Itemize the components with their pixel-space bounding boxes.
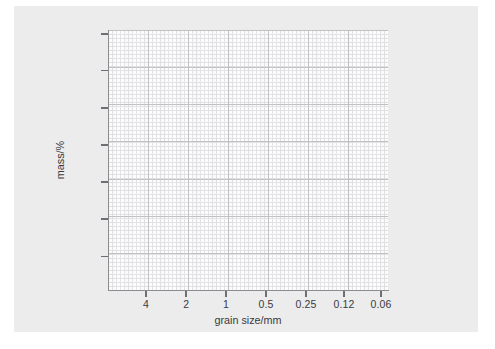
x-axis-tick: [265, 291, 266, 297]
y-axis-tick: [101, 218, 108, 219]
x-axis-tick-label: 0.12: [334, 298, 355, 310]
figure-card: 4210.50.250.120.06 grain size/mm mass/%: [14, 6, 478, 332]
x-axis-tick: [305, 291, 306, 297]
x-axis-tick-label: 1: [223, 298, 229, 310]
grid-major: [108, 30, 388, 290]
y-axis-tick: [101, 70, 108, 71]
x-axis-tick-label: 0.25: [296, 298, 317, 310]
x-axis-tick-label: 0.5: [258, 298, 273, 310]
x-axis-tick: [343, 291, 344, 297]
y-axis-line: [108, 30, 109, 291]
chart-figure: 4210.50.250.120.06 grain size/mm mass/%: [14, 6, 478, 332]
x-axis-title: grain size/mm: [214, 314, 281, 326]
y-axis-title: mass/%: [54, 141, 66, 179]
x-axis-tick-label: 2: [183, 298, 189, 310]
x-axis-tick-label: 0.06: [371, 298, 392, 310]
y-axis-tick: [101, 144, 108, 145]
y-axis-tick: [101, 256, 108, 257]
plot-area: [108, 30, 388, 290]
x-axis-tick: [380, 291, 381, 297]
x-axis-tick: [185, 291, 186, 297]
x-axis-line: [108, 290, 389, 291]
x-axis-tick-label: 4: [143, 298, 149, 310]
y-axis-tick: [101, 107, 108, 108]
x-axis-tick: [145, 291, 146, 297]
page-canvas: 4210.50.250.120.06 grain size/mm mass/%: [0, 0, 495, 349]
x-axis-tick: [225, 291, 226, 297]
y-axis-tick: [101, 33, 108, 34]
y-axis-tick: [101, 181, 108, 182]
